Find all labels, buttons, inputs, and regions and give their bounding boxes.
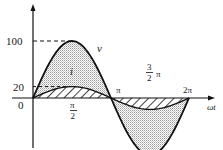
x-tick-pi-half-numerator: π bbox=[70, 100, 75, 110]
y-tick-20: 20 bbox=[13, 81, 25, 93]
origin-label: 0 bbox=[18, 99, 24, 111]
x-tick-pi-half-denominator: 2 bbox=[71, 111, 76, 121]
voltage-label: v bbox=[97, 42, 102, 54]
y-tick-100: 100 bbox=[6, 35, 23, 47]
x-axis-label: ωt bbox=[207, 102, 216, 112]
x-axis-arrow-icon bbox=[208, 96, 215, 101]
current-label: i bbox=[70, 65, 73, 77]
x-tick-pi: π bbox=[116, 85, 121, 95]
sine-power-diagram: 100 20 0 v i π 2 π 3 2 π 2π ωt bbox=[0, 0, 223, 150]
x-tick-three-half-denominator: 2 bbox=[147, 73, 152, 83]
x-tick-three-half-pi: π bbox=[156, 69, 161, 79]
x-tick-two-pi: 2π bbox=[183, 85, 193, 95]
y-axis-arrow-icon bbox=[31, 4, 36, 11]
x-tick-three-half-numerator: 3 bbox=[147, 62, 152, 72]
